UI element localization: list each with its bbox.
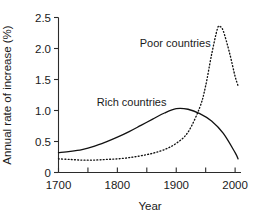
chart-figure: 00.51.01.52.02.5 1700180019002000 Rich c…: [0, 0, 261, 217]
x-axis-title: Year: [138, 200, 161, 212]
series-label-poor-countries: Poor countries: [140, 37, 211, 49]
series-line-rich-countries: [59, 108, 239, 159]
x-tick-label: 1800: [105, 179, 131, 191]
line-chart-svg: 00.51.01.52.02.5 1700180019002000 Rich c…: [0, 0, 261, 217]
x-tick-label: 2000: [222, 179, 248, 191]
y-tick-label: 2.0: [35, 43, 51, 55]
y-tick-label: 1.5: [35, 74, 51, 86]
x-tick-label: 1700: [46, 179, 72, 191]
series-label-rich-countries: Rich countries: [97, 96, 167, 108]
y-tick-label: 0.5: [35, 136, 51, 148]
y-axis-title: Annual rate of increase (%): [1, 25, 13, 165]
x-axis-ticks: 1700180019002000: [46, 168, 248, 191]
y-tick-label: 1.0: [35, 105, 51, 117]
y-axis-ticks: 00.51.01.52.02.5: [35, 12, 59, 179]
y-tick-label: 2.5: [35, 12, 51, 24]
x-tick-label: 1900: [163, 179, 189, 191]
y-tick-label: 0: [45, 167, 51, 179]
